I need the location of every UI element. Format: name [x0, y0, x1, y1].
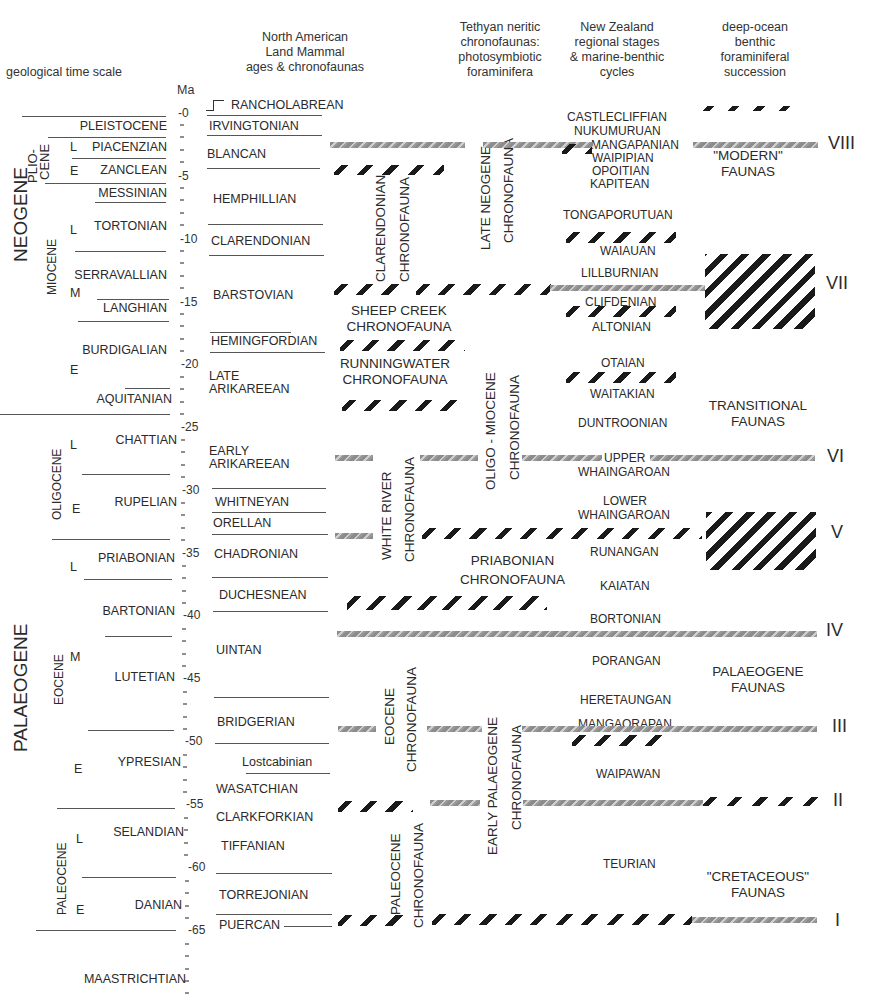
stage-langhian: LANGHIAN — [103, 301, 167, 315]
step-icon — [213, 100, 224, 111]
boundary-line — [214, 697, 329, 698]
text-line: "MODERN" — [708, 148, 788, 164]
boundary-line — [0, 414, 170, 415]
boundary-line — [207, 115, 322, 116]
header-line: benthic — [705, 35, 805, 50]
fauna-transitional: TRANSITIONAL FAUNAS — [703, 398, 813, 430]
boundary-line — [215, 743, 329, 744]
nalma-early-arikareean: EARLY ARIKAREEAN — [209, 445, 290, 471]
nz-castlecliffian: CASTLECLIFFIAN — [567, 110, 667, 124]
stage-tortonian: TORTONIAN — [94, 219, 167, 233]
nz-waitakian: WAITAKIAN — [590, 387, 655, 401]
header-line: photosymbiotic — [445, 50, 555, 65]
subdiv-e: E — [74, 762, 82, 776]
nalma-tiffanian: TIFFANIAN — [221, 839, 285, 853]
boundary-line — [82, 877, 176, 878]
stage-zanclean: ZANCLEAN — [100, 163, 167, 177]
boundary-line — [212, 488, 326, 489]
boundary-band-grey — [337, 631, 817, 637]
header-nz: New Zealand regional stages & marine-ben… — [562, 20, 672, 80]
header-deep-ocean: deep-ocean benthic foraminiferal success… — [705, 20, 805, 80]
subdiv-l: L — [70, 140, 77, 154]
header-line: foraminiferal — [705, 50, 805, 65]
minor-ticks — [175, 100, 195, 1000]
faunal-turnover-band — [347, 596, 547, 610]
boundary-line — [125, 388, 170, 389]
boundary-line — [210, 332, 291, 333]
boundary-band-grey — [522, 455, 602, 461]
nz-teurian: TEURIAN — [603, 857, 656, 871]
nalma-irvingtonian: IRVINGTONIAN — [209, 119, 299, 133]
text-line: PALAEOGENE — [703, 664, 813, 680]
stage-piacenzian: PIACENZIAN — [92, 140, 167, 154]
boundary-line — [48, 137, 166, 138]
subdiv-m: M — [70, 286, 80, 300]
boundary-band-grey — [420, 455, 478, 461]
boundary-band-grey — [650, 455, 815, 461]
header-nalma: North American Land Mammal ages & chrono… — [240, 30, 370, 75]
boundary-line — [284, 926, 332, 927]
stage-burdigalian: BURDIGALIAN — [82, 343, 167, 357]
chronofauna-paleocene-2: CHRONOFAUNA — [412, 823, 426, 928]
nz-whaingaroan-2: WHAINGAROAN — [578, 508, 670, 522]
subdiv-e: E — [76, 903, 84, 917]
boundary-band-grey — [338, 726, 376, 732]
text-line: FAUNAS — [708, 164, 788, 180]
header-line: ages & chronofaunas — [240, 60, 370, 75]
faunal-turnover-band — [700, 106, 800, 111]
nz-kaiatan: KAIATAN — [600, 579, 650, 593]
cycle-i: I — [835, 910, 840, 931]
boundary-line — [246, 773, 330, 774]
boundary-line — [213, 611, 328, 612]
step-icon-base — [206, 110, 214, 111]
header-line: & marine-benthic — [562, 50, 672, 65]
header-line: chronofaunas: — [445, 35, 555, 50]
chronofauna-clarendonian-2: CHRONOFAUNA — [398, 177, 412, 282]
chronofauna-eocene: EOCENE — [383, 688, 397, 745]
boundary-line — [97, 299, 169, 300]
text-line: RUNNINGWATER — [330, 356, 460, 372]
nalma-blancan: BLANCAN — [207, 147, 266, 161]
cycle-vii: VII — [826, 273, 848, 294]
boundary-line — [52, 539, 170, 540]
stage-rupelian: RUPELIAN — [114, 495, 177, 509]
fauna-cretaceous: "CRETACEOUS" FAUNAS — [703, 869, 813, 901]
nalma-line: ARIKAREEAN — [209, 458, 290, 471]
chronofauna-late-neogene-2: CHRONOFAUNA — [502, 138, 516, 243]
nz-waiauan: WAIAUAN — [600, 244, 656, 258]
text-line: "CRETACEOUS" — [703, 869, 813, 885]
boundary-line — [84, 579, 172, 580]
header-line: deep-ocean — [705, 20, 805, 35]
nalma-uintan: UINTAN — [216, 643, 262, 657]
boundary-band-grey — [335, 533, 373, 539]
nz-bortonian: BORTONIAN — [590, 612, 661, 626]
epoch-paleocene: PALEOCENE — [55, 843, 69, 915]
boundary-band-grey — [522, 726, 817, 732]
subdiv-l: L — [70, 438, 77, 452]
fauna-modern: "MODERN" FAUNAS — [708, 148, 788, 180]
stage-selandian: SELANDIAN — [113, 825, 184, 839]
boundary-line — [212, 512, 326, 513]
chronofauna-early-palaeogene-2: CHRONOFAUNA — [510, 725, 524, 830]
subdiv-l: L — [76, 832, 83, 846]
faunal-turnover-band — [340, 340, 465, 351]
cycle-ii: II — [833, 790, 843, 811]
text-line: CHRONOFAUNA — [339, 319, 459, 335]
faunal-turnover-band — [334, 165, 444, 175]
boundary-line — [78, 321, 169, 322]
text-line: PRIABONIAN — [445, 551, 580, 570]
nz-lillburnian: LILLBURNIAN — [581, 266, 658, 280]
chronofauna-paleocene: PALEOCENE — [389, 833, 403, 915]
chronofauna-priabonian: PRIABONIAN CHRONOFAUNA — [445, 551, 580, 589]
header-tethyan: Tethyan neritic chronofaunas: photosymbi… — [445, 20, 555, 80]
chronofauna-oligo-miocene: OLIGO - MIOCENE — [484, 372, 498, 490]
stage-bartonian: BARTONIAN — [103, 604, 175, 618]
faunal-turnover-band — [416, 284, 551, 295]
nalma-chadronian: CHADRONIAN — [214, 547, 298, 561]
nz-upper: UPPER — [604, 451, 645, 465]
faunal-turnover-band — [338, 915, 410, 926]
boundary-band-grey — [693, 142, 818, 148]
boundary-line — [36, 930, 176, 931]
stage-pleistocene: PLEISTOCENE — [80, 119, 167, 133]
boundary-line — [82, 474, 170, 475]
